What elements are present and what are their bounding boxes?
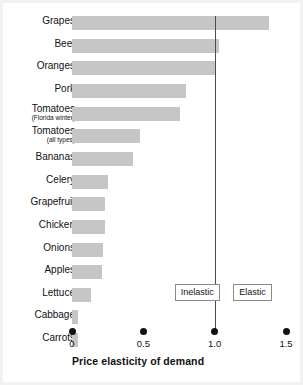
bar-row-label-main: Chicken [0,219,75,230]
bar-row: Beef [3,38,303,54]
bar-row-label-main: Cabbage [0,309,75,320]
x-axis-tick-label: 1.5 [279,338,292,349]
chart-figure: GrapesBeefOrangesPorkTomatoes(Florida wi… [0,0,303,385]
bar-row-label: Tomatoes(all types) [0,128,75,143]
bar-row: Apples [3,264,303,280]
x-axis-tick-dot [283,328,290,335]
bar-row: Grapes [3,15,303,31]
bar-row-label: Apples [0,264,75,275]
bar-row: Cabbage [3,309,303,325]
bar-row-label: Chicken [0,219,75,230]
bar-row: Onions [3,242,303,258]
bar [72,310,78,324]
bar [72,39,219,53]
bar [72,175,108,189]
bar-row-label: Beef [0,38,75,49]
bar [72,220,105,234]
bar-row-label: Celery [0,174,75,185]
x-axis-tick-label: 0 [69,338,74,349]
bar-row-label-main: Tomatoes [0,125,75,136]
bar-row-label: Pork [0,83,75,94]
bar-row: Chicken [3,219,303,235]
bar [72,107,180,121]
bar-row-label-main: Apples [0,264,75,275]
bar-row: Grapefruit [3,196,303,212]
bar-row-label-sub: (all types) [0,136,75,143]
bar-row-label: Onions [0,242,75,253]
bar [72,243,103,257]
bar-row-label: Grapes [0,15,75,26]
annotation-elastic: Elastic [233,284,272,301]
bar-row-label-main: Beef [0,38,75,49]
bar [72,197,105,211]
annotation-inelastic: Inelastic [175,284,220,301]
bar-row-label-main: Pork [0,83,75,94]
bar-row: Pork [3,83,303,99]
bar-row-label-sub: (Florida winter) [0,114,75,121]
bar-row-label-main: Tomatoes [0,103,75,114]
bar-row: Tomatoes(all types) [3,128,303,144]
bar-row: Tomatoes(Florida winter) [3,106,303,122]
bar-row-label: Tomatoes(Florida winter) [0,106,75,121]
bar [72,129,140,143]
bar-row: Oranges [3,60,303,76]
x-axis-title: Price elasticity of demand [72,355,204,367]
x-axis-tick-dot [211,328,218,335]
bar-row-label-main: Grapefruit [0,196,75,207]
bar-row-label: Bananas [0,151,75,162]
bar [72,265,102,279]
bar [72,16,269,30]
bar [72,84,186,98]
bar-row-label-main: Oranges [0,60,75,71]
x-axis: 00.51.01.5 Price elasticity of demand [3,328,303,385]
x-axis-tick-label: 1.0 [208,338,221,349]
x-axis-tick-dot [69,328,76,335]
bar-row-label: Grapefruit [0,196,75,207]
bar-row: Celery [3,174,303,190]
bar-row-label: Lettuce [0,287,75,298]
bar-row: Bananas [3,151,303,167]
x-axis-tick-label: 0.5 [137,338,150,349]
bar [72,61,215,75]
x-axis-tick-dot [140,328,147,335]
bar-row-label-main: Celery [0,174,75,185]
bar-row-label-main: Grapes [0,15,75,26]
bar [72,152,133,166]
bar-row-label-main: Onions [0,242,75,253]
bar-row-label-main: Lettuce [0,287,75,298]
bar-row-label: Oranges [0,60,75,71]
bar-row-label: Cabbage [0,309,75,320]
bar-row-label-main: Bananas [0,151,75,162]
bar [72,288,91,302]
